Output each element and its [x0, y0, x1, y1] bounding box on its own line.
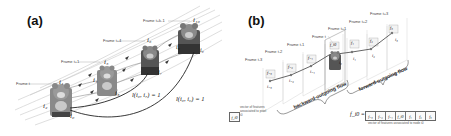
pixel-i10: i₁₀: [193, 16, 200, 24]
frame-label-t1: Frame t+1: [61, 59, 79, 64]
frame-label-t: Frame t: [312, 34, 326, 39]
pixel-i7: i₇: [158, 69, 162, 75]
frame-label-t-plus-3: Frame t+3: [370, 11, 388, 16]
frame-label-t-plus-1: Frame t+1: [328, 26, 346, 31]
feature-f-3: f₃: [390, 25, 393, 30]
panel-a-label: (a): [27, 13, 43, 28]
panel-a: (a) Frame t Frame t+1 Frame t+4 Frame t+…: [0, 0, 225, 136]
frame-label-t-plus-2: Frame t+2: [349, 19, 367, 24]
feature-vector: f₋₃ f₋₂ f₋₁ f_i0 f₁ f₂ f₃: [365, 111, 436, 121]
node-i-minus-1: i₋₁: [310, 69, 315, 74]
frame-label-t-minus-2: Frame t-2: [265, 49, 282, 54]
feature-f-minus-3: f₋₃: [267, 70, 272, 75]
vector-cell: f₋₃: [366, 112, 376, 120]
frame-label-t-minus-3: Frame t-3: [245, 57, 262, 62]
feature-f-1: f₁: [351, 40, 354, 45]
pixel-i6: i₆: [147, 36, 151, 44]
bear-frame-t1: [97, 66, 117, 97]
pixel-i4: i₄: [93, 76, 97, 84]
equation-link-i0-i9: l(i₀, i₉) = 1: [176, 95, 204, 102]
bear-frame-t4: [141, 46, 159, 76]
pixel-i8: i₈: [176, 44, 180, 50]
feature-f-2: f₂: [370, 38, 373, 43]
panel-b: (b) Frame t-3 Frame t-2 Frame t-1 Frame …: [225, 0, 451, 136]
feature-f-i0: f_i0: [330, 42, 336, 47]
frame-label-t4: Frame t+4: [103, 38, 121, 43]
vector-caption: vector of features associated to node i0: [368, 122, 424, 126]
legend-text: vector of features associated to pixel i…: [240, 106, 268, 117]
legend-symbol: f_i0: [230, 113, 239, 121]
feature-f-minus-1: f₋₁: [308, 55, 313, 60]
pixel-i9: i₉: [200, 47, 204, 53]
pixel-i2: i₂: [43, 102, 47, 110]
feature-f-minus-2: f₋₂: [288, 64, 293, 69]
bear-frame-t: [50, 83, 72, 117]
vector-cell: f₋₁: [386, 112, 396, 120]
frame-label-t-minus-1: Frame t-1: [287, 42, 304, 47]
pixel-i3: i₃: [115, 89, 119, 97]
equation-link-i0-i7: l(i₀, i₇) = 1: [132, 91, 160, 98]
vector-lhs: f_i0 =: [350, 111, 365, 117]
pixel-i0: i₀: [70, 112, 74, 120]
vector-cell: f₋₂: [376, 112, 386, 120]
pixel-i1: i₁: [59, 78, 63, 86]
node-i0: i₀: [339, 60, 342, 65]
node-i1: i₁: [353, 56, 356, 61]
panel-b-label: (b): [248, 13, 265, 28]
node-i3: i₃: [395, 37, 398, 42]
node-i-minus-2: i₋₂: [289, 78, 294, 83]
node-i-minus-3: i₋₃: [267, 84, 272, 89]
frame-label-tk1: Frame t+k-1: [143, 18, 165, 23]
pixel-i5: i₅: [104, 58, 108, 66]
legend-symbol-box: f_i0: [229, 112, 240, 122]
vector-cell: f₃: [426, 112, 435, 120]
node-i2: i₂: [372, 53, 375, 58]
frame-label-t: Frame t: [16, 81, 30, 86]
vector-cell: f_i0: [396, 112, 406, 120]
vector-cell: f₂: [416, 112, 426, 120]
vector-cell: f₁: [406, 112, 416, 120]
bear-frame-tk1: [178, 23, 200, 54]
